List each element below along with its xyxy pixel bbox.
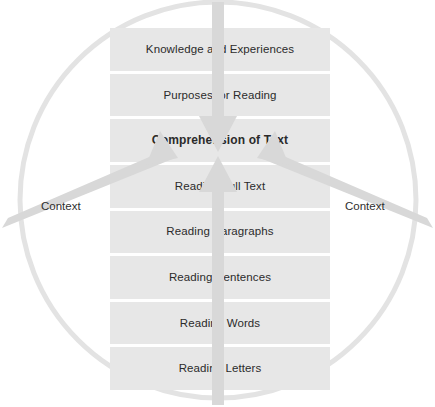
left-context-arrow-head	[146, 131, 178, 165]
context-label-right: Context	[345, 200, 385, 212]
right-context-arrow-head	[257, 131, 289, 165]
context-label-left: Context	[41, 200, 81, 212]
bottom-up-arrow-shaft	[212, 182, 224, 405]
diagram-canvas: Knowledge and Experiences Purposes for R…	[0, 0, 435, 407]
bottom-up-arrow-head	[199, 156, 237, 192]
top-down-arrow-head	[199, 116, 237, 152]
